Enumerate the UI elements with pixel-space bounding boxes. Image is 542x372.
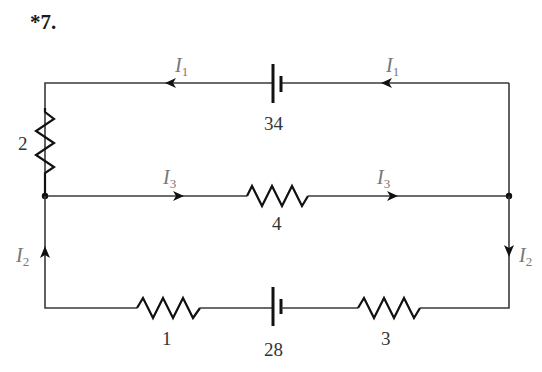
resistor-left-label: 2 xyxy=(18,134,28,153)
circuit-diagram xyxy=(0,0,542,372)
middle-branch xyxy=(42,186,512,206)
battery-top-icon xyxy=(273,64,281,103)
battery-top-label: 34 xyxy=(264,114,283,133)
battery-bottom-label: 28 xyxy=(264,340,283,359)
current-label-top-right: I1 xyxy=(386,55,399,78)
resistor-middle-label: 4 xyxy=(272,214,282,233)
resistor-bottom-left-label: 1 xyxy=(162,329,172,348)
current-label-mid-left: I3 xyxy=(163,167,176,190)
current-label-top-left: I1 xyxy=(175,55,188,78)
current-label-right: I2 xyxy=(519,245,532,268)
resistor-bottom-right-label: 3 xyxy=(381,329,391,348)
current-label-mid-right: I3 xyxy=(377,167,390,190)
resistor-middle-icon xyxy=(247,186,308,206)
battery-bottom-icon xyxy=(273,287,281,326)
resistor-bottom-right-icon xyxy=(358,298,420,318)
resistor-bottom-left-icon xyxy=(137,298,200,318)
top-left-wire xyxy=(45,83,273,172)
current-label-left: I2 xyxy=(16,245,29,268)
